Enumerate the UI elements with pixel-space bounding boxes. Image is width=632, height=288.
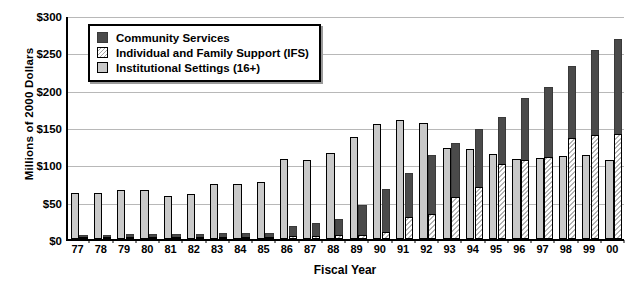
bar-individual-family-support (149, 237, 157, 239)
y-axis-tick-250: $250 (6, 48, 62, 60)
bar-institutional-settings (605, 160, 613, 239)
bar-institutional-settings (466, 149, 474, 239)
x-axis-tick-82: 82 (188, 243, 200, 255)
bar-individual-family-support (358, 235, 366, 239)
bar-group (347, 17, 370, 239)
x-axis-tick-79: 79 (118, 243, 130, 255)
bar-institutional-settings (140, 190, 148, 239)
x-axis-tick-mark (391, 240, 392, 243)
bar-group (533, 17, 556, 239)
x-axis-tick-mark (112, 240, 113, 243)
x-axis-tick-mark (275, 240, 276, 243)
x-axis-tick-84: 84 (234, 243, 246, 255)
x-axis-tick-87: 87 (304, 243, 316, 255)
x-axis-tick-mark (89, 240, 90, 243)
bar-individual-family-support (196, 237, 204, 239)
x-axis-tick-88: 88 (327, 243, 339, 255)
bar-individual-family-support (544, 157, 552, 239)
x-axis-tick-mark (438, 240, 439, 243)
x-axis-tick-00: 00 (606, 243, 618, 255)
x-axis-tick-mark (624, 240, 625, 243)
legend-label-individual-family-support: Individual and Family Support (IFS) (116, 47, 309, 59)
x-axis-tick-mark (321, 240, 322, 243)
bar-individual-family-support (126, 237, 134, 239)
bar-individual-family-support (335, 235, 343, 239)
x-axis-tick-mark (159, 240, 160, 243)
x-axis-tick-80: 80 (141, 243, 153, 255)
bar-institutional-settings (187, 194, 195, 239)
bar-individual-family-support (405, 217, 413, 239)
x-axis-tick-86: 86 (281, 243, 293, 255)
bar-institutional-settings (512, 159, 520, 239)
x-axis-tick-mark (484, 240, 485, 243)
bar-group (487, 17, 510, 239)
bar-individual-family-support (79, 237, 87, 239)
chart-legend: Community Services Individual and Family… (88, 24, 321, 82)
bar-group (603, 17, 626, 239)
y-axis-tick-150: $150 (6, 123, 62, 135)
bar-group (510, 17, 533, 239)
x-axis-tick-mark (252, 240, 253, 243)
bar-institutional-settings (373, 124, 381, 239)
bar-individual-family-support (242, 237, 250, 239)
x-axis-tick-83: 83 (211, 243, 223, 255)
bar-institutional-settings (94, 193, 102, 239)
y-axis-tick-labels: $0$50$100$150$200$250$300 (6, 0, 62, 288)
bar-institutional-settings (559, 156, 567, 239)
bar-individual-family-support (103, 237, 111, 239)
bar-group (556, 17, 579, 239)
bar-institutional-settings (233, 184, 241, 239)
x-axis-tick-mark (298, 240, 299, 243)
bar-institutional-settings (257, 182, 265, 239)
bar-group (440, 17, 463, 239)
bar-individual-family-support (451, 197, 459, 239)
x-axis-tick-mark (554, 240, 555, 243)
x-axis-tick-78: 78 (95, 243, 107, 255)
legend-item-community-services: Community Services (97, 30, 309, 45)
bar-institutional-settings (164, 196, 172, 239)
legend-item-individual-family-support: Individual and Family Support (IFS) (97, 45, 309, 60)
x-axis-tick-mark (461, 240, 462, 243)
bar-institutional-settings (582, 155, 590, 239)
y-axis-tick-300: $300 (6, 11, 62, 23)
bar-individual-family-support (289, 236, 297, 239)
bar-individual-family-support (614, 134, 622, 239)
legend-swatch-community-services (97, 32, 108, 43)
x-axis-tick-77: 77 (72, 243, 84, 255)
x-axis-tick-81: 81 (165, 243, 177, 255)
x-axis-tick-91: 91 (397, 243, 409, 255)
x-axis-tick-85: 85 (258, 243, 270, 255)
bar-institutional-settings (443, 148, 451, 239)
legend-swatch-institutional-settings (97, 62, 108, 73)
legend-label-community-services: Community Services (116, 32, 230, 44)
x-axis-tick-96: 96 (513, 243, 525, 255)
x-axis-title: Fiscal Year (66, 263, 624, 277)
y-axis-tick-50: $50 (6, 198, 62, 210)
bar-individual-family-support (521, 160, 529, 239)
x-axis-tick-90: 90 (374, 243, 386, 255)
bar-institutional-settings (117, 190, 125, 239)
bar-individual-family-support (219, 237, 227, 239)
bar-individual-family-support (172, 237, 180, 239)
x-axis-tick-mark (531, 240, 532, 243)
x-axis-tick-97: 97 (537, 243, 549, 255)
x-axis-tick-94: 94 (467, 243, 479, 255)
bar-institutional-settings (489, 154, 497, 239)
x-axis-tick-mark (507, 240, 508, 243)
chart-figure: Millions of 2000 Dollars $0$50$100$150$2… (0, 0, 632, 288)
bar-institutional-settings (71, 193, 79, 239)
bar-group (394, 17, 417, 239)
x-axis-tick-mark (205, 240, 206, 243)
x-axis-tick-mark (345, 240, 346, 243)
bar-institutional-settings (280, 159, 288, 239)
x-axis-tick-99: 99 (583, 243, 595, 255)
bar-individual-family-support (498, 164, 506, 239)
legend-item-institutional-settings: Institutional Settings (16+) (97, 60, 309, 75)
bar-individual-family-support (428, 214, 436, 239)
legend-label-institutional-settings: Institutional Settings (16+) (116, 62, 260, 74)
y-axis-tick-0: $0 (6, 235, 62, 247)
x-axis-tick-92: 92 (420, 243, 432, 255)
x-axis-tick-98: 98 (560, 243, 572, 255)
bar-group (417, 17, 440, 239)
x-axis-tick-89: 89 (351, 243, 363, 255)
